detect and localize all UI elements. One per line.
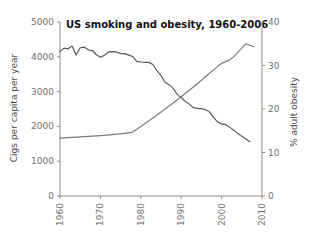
y-tick-label: 4000 [31, 52, 54, 62]
y2-tick-label: 30 [268, 61, 280, 71]
y2-tick-label: 40 [268, 17, 280, 27]
smoking-obesity-line-chart: US smoking and obesity, 1960-2006 010002… [0, 0, 309, 249]
y-tick-label: 1000 [31, 156, 54, 166]
y2-tick-label: 20 [268, 104, 280, 114]
x-tick-label: 1980 [136, 203, 146, 226]
x-tick-label: 1990 [176, 203, 186, 226]
y2-axis-title: % adult obesity [289, 76, 299, 147]
plot-title-group: US smoking and obesity, 1960-2006 [66, 19, 268, 30]
y-axis-title: Cigs per capita per year [9, 54, 19, 163]
y-axis-title-group: Cigs per capita per year [9, 54, 19, 163]
x-tick-label: 2000 [217, 203, 227, 226]
x-tick-label: 1970 [95, 203, 105, 226]
y-tick-label: 5000 [31, 17, 54, 27]
series-line-cigarettes [60, 46, 250, 142]
y-tick-label: 3000 [31, 87, 54, 97]
x-tick-label: 1960 [55, 203, 65, 226]
y2-tick-label: 10 [268, 148, 280, 158]
axes-layer [57, 22, 265, 199]
y2-tick-label: 0 [268, 191, 274, 201]
series-layer [60, 44, 254, 142]
chart-container: US smoking and obesity, 1960-2006 010002… [0, 0, 309, 249]
y-tick-label: 2000 [31, 121, 54, 131]
y-tick-label: 0 [48, 191, 54, 201]
x-tick-label: 2010 [257, 203, 267, 226]
y2-axis-title-group: % adult obesity [289, 76, 299, 147]
chart-title: US smoking and obesity, 1960-2006 [66, 19, 268, 30]
